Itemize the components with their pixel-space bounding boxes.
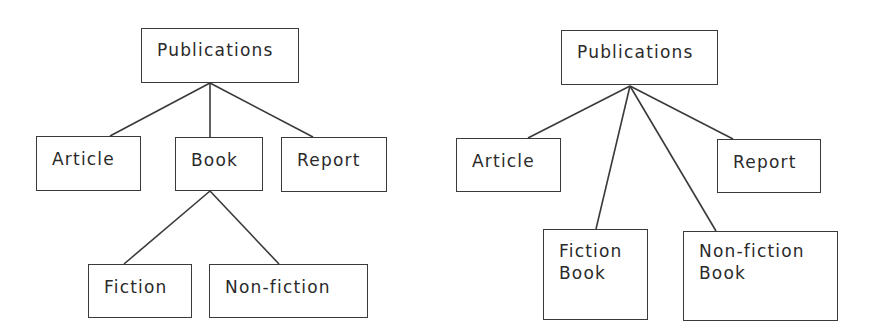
- edge-book-fiction: [124, 191, 210, 264]
- node-report: Report: [281, 137, 387, 192]
- node-label: Article: [52, 148, 140, 170]
- edge-publications-fiction-book: [596, 86, 630, 229]
- node-publications-2: Publications: [561, 30, 718, 85]
- edge-book-nonfiction: [210, 191, 279, 264]
- node-label-line-2: Book: [699, 262, 837, 284]
- node-label: Publications: [577, 41, 717, 63]
- node-fiction: Fiction: [88, 264, 192, 318]
- node-non-fiction-book: Non-fiction Book: [683, 231, 838, 321]
- node-label: Article: [472, 150, 560, 172]
- node-label-line-1: Fiction: [559, 240, 647, 262]
- node-report-2: Report: [717, 139, 821, 193]
- node-label: Publications: [157, 39, 298, 61]
- edge-publications-article-2: [528, 86, 630, 138]
- node-book: Book: [175, 137, 263, 191]
- node-article-2: Article: [456, 138, 561, 192]
- edge-publications-report: [210, 83, 313, 137]
- node-label: Book: [191, 149, 262, 171]
- node-fiction-book: Fiction Book: [543, 229, 648, 320]
- node-label-line-1: Non-fiction: [699, 240, 837, 262]
- node-label: Fiction: [104, 276, 191, 298]
- node-label: Report: [733, 151, 820, 173]
- node-label-line-2: Book: [559, 262, 647, 284]
- node-article: Article: [36, 136, 141, 191]
- node-label: Non-fiction: [225, 276, 367, 298]
- node-non-fiction: Non-fiction: [209, 264, 368, 318]
- edge-publications-article: [110, 83, 210, 136]
- node-publications: Publications: [141, 28, 299, 83]
- node-label: Report: [297, 149, 386, 171]
